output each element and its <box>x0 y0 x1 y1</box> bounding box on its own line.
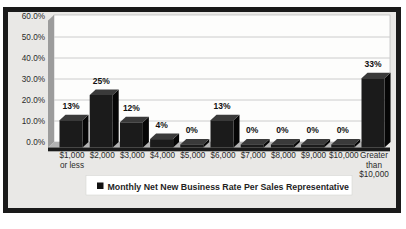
x-axis-category-label: $4,000 <box>150 151 175 160</box>
x-axis-category-label: $10,000 <box>329 151 359 160</box>
bar <box>331 145 354 148</box>
x-axis-category-label: or less <box>60 161 84 170</box>
bar-side-face <box>385 73 391 148</box>
y-axis-tick-label: 60.0% <box>22 12 45 21</box>
bar-data-label: 0% <box>276 125 289 135</box>
bar-data-label: 33% <box>364 59 381 69</box>
legend-label: Monthly Net New Business Rate Per Sales … <box>108 182 350 192</box>
y-axis-tick-label: 20.0% <box>22 96 45 105</box>
y-axis-tick-label: 30.0% <box>22 75 45 84</box>
axis-wall-3d <box>48 15 54 148</box>
bar <box>241 145 264 148</box>
bar-data-label: 0% <box>186 125 199 135</box>
x-axis-category-label: $7,000 <box>241 151 266 160</box>
x-axis-category-label: $8,000 <box>271 151 296 160</box>
bar <box>180 145 203 148</box>
bar-data-label: 12% <box>123 103 140 113</box>
x-axis-category-label: than <box>366 161 382 170</box>
bar <box>362 78 385 147</box>
y-axis-tick-label: 40.0% <box>22 54 45 63</box>
legend-marker-icon <box>97 183 104 190</box>
bar-data-label: 25% <box>93 76 110 86</box>
bar-data-label: 13% <box>213 101 230 111</box>
bar <box>150 139 173 147</box>
y-axis-tick-label: 50.0% <box>22 33 45 42</box>
bar <box>301 145 324 148</box>
bar <box>211 120 234 147</box>
x-axis-category-label: $5,000 <box>180 151 205 160</box>
x-axis-category-label: $9,000 <box>301 151 326 160</box>
x-axis-category-label: $3,000 <box>120 151 145 160</box>
chart-figure: 60.0%50.0%40.0%30.0%20.0%10.0%0.0%13%$1,… <box>0 0 406 229</box>
bar <box>60 120 83 147</box>
bar-side-face <box>83 115 89 148</box>
bar-data-label: 0% <box>306 125 319 135</box>
x-axis-category-label: $2,000 <box>90 151 115 160</box>
bar-side-face <box>113 90 119 148</box>
bar-data-label: 0% <box>246 125 259 135</box>
y-axis-tick-label: 0.0% <box>26 138 45 147</box>
bar <box>271 145 294 148</box>
bar-data-label: 0% <box>337 125 350 135</box>
x-axis-category-label: $1,000 <box>59 151 84 160</box>
bar-side-face <box>234 115 240 148</box>
bar-data-label: 13% <box>62 101 79 111</box>
bar <box>90 95 113 148</box>
bar-chart: 60.0%50.0%40.0%30.0%20.0%10.0%0.0%13%$1,… <box>0 0 406 229</box>
x-axis-category-label: $6,000 <box>210 151 235 160</box>
y-axis-tick-label: 10.0% <box>22 117 45 126</box>
x-axis-category-label: $10,000 <box>359 170 389 179</box>
bar-data-label: 4% <box>155 120 168 130</box>
x-axis-category-label: Greater <box>360 151 388 160</box>
bar <box>120 122 143 147</box>
